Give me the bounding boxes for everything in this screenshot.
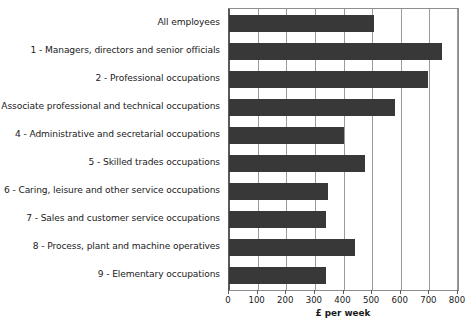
category-label-row: 6 - Caring, leisure and other service oc… xyxy=(0,177,224,205)
x-tick-label: 800 xyxy=(449,295,465,305)
category-label: 1 - Managers, directors and senior offic… xyxy=(31,45,220,56)
x-tick-label: 200 xyxy=(277,295,293,305)
x-tick-mark xyxy=(400,290,401,294)
bar-row xyxy=(229,9,458,37)
category-label: 2 - Professional occupations xyxy=(96,73,220,84)
bar-row xyxy=(229,262,458,290)
x-tick-label: 700 xyxy=(420,295,436,305)
bar xyxy=(229,15,374,32)
category-label: 5 - Skilled trades occupations xyxy=(89,157,220,168)
bar xyxy=(229,99,395,116)
category-label: 8 - Process, plant and machine operative… xyxy=(33,241,220,252)
category-label-row: 8 - Process, plant and machine operative… xyxy=(0,233,224,261)
category-label-row: 1 - Managers, directors and senior offic… xyxy=(0,36,224,64)
x-tick-mark xyxy=(314,290,315,294)
x-tick-label: 0 xyxy=(225,295,230,305)
bar-row xyxy=(229,178,458,206)
x-axis: £ per week 0100200300400500600700800 xyxy=(228,290,458,324)
x-axis-title: £ per week xyxy=(228,308,458,318)
bar-row xyxy=(229,206,458,234)
category-label-row: 9 - Elementary occupations xyxy=(0,261,224,289)
bar-row xyxy=(229,121,458,149)
category-label-row: 5 - Skilled trades occupations xyxy=(0,148,224,176)
category-label-row: 7 - Sales and customer service occupatio… xyxy=(0,205,224,233)
bar-row xyxy=(229,65,458,93)
x-tick-mark xyxy=(228,290,229,294)
x-tick-mark xyxy=(257,290,258,294)
bar xyxy=(229,127,344,144)
category-label: All employees xyxy=(158,17,221,28)
x-tick-label: 100 xyxy=(248,295,264,305)
bar xyxy=(229,155,365,172)
bar xyxy=(229,71,428,88)
bar-row xyxy=(229,37,458,65)
category-label-row: All employees xyxy=(0,8,224,36)
x-tick-mark xyxy=(371,290,372,294)
plot-area xyxy=(228,8,459,291)
bar-row xyxy=(229,149,458,177)
bar-chart: All employees1 - Managers, directors and… xyxy=(0,0,471,324)
bar-series xyxy=(229,9,458,290)
bar xyxy=(229,211,326,228)
x-tick-label: 600 xyxy=(392,295,408,305)
category-label-row: 3 - Associate professional and technical… xyxy=(0,92,224,120)
category-label-row: 2 - Professional occupations xyxy=(0,64,224,92)
category-axis-labels: All employees1 - Managers, directors and… xyxy=(0,8,224,289)
category-label: 3 - Associate professional and technical… xyxy=(0,101,220,112)
category-label: 7 - Sales and customer service occupatio… xyxy=(26,213,220,224)
bar xyxy=(229,183,328,200)
bar-row xyxy=(229,93,458,121)
category-label: 6 - Caring, leisure and other service oc… xyxy=(4,185,220,196)
x-tick-mark xyxy=(428,290,429,294)
bar-row xyxy=(229,234,458,262)
bar xyxy=(229,267,326,284)
x-tick-mark xyxy=(457,290,458,294)
x-tick-mark xyxy=(285,290,286,294)
x-tick-label: 500 xyxy=(363,295,379,305)
x-tick-label: 300 xyxy=(306,295,322,305)
category-label: 9 - Elementary occupations xyxy=(98,269,220,280)
x-tick-mark xyxy=(343,290,344,294)
category-label: 4 - Administrative and secretarial occup… xyxy=(15,129,220,140)
bar xyxy=(229,43,442,60)
x-tick-label: 400 xyxy=(334,295,350,305)
bar xyxy=(229,239,355,256)
category-label-row: 4 - Administrative and secretarial occup… xyxy=(0,120,224,148)
